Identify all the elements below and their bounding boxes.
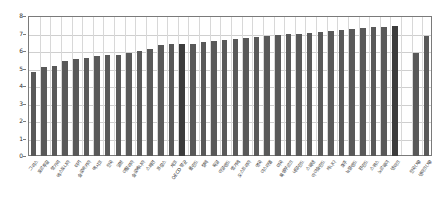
bar	[318, 32, 324, 156]
bar	[413, 53, 419, 156]
bar	[286, 34, 292, 156]
bar	[254, 37, 260, 156]
x-axis-tick-label: 호주	[339, 159, 348, 168]
bar	[328, 31, 334, 156]
bar	[349, 29, 355, 156]
y-axis: 012345678	[0, 16, 26, 156]
x-axis-tick-label: 일본	[116, 159, 125, 168]
bar	[211, 41, 217, 157]
bar	[84, 58, 90, 156]
bar	[222, 40, 228, 156]
bar	[126, 53, 132, 156]
y-axis-tick-mark	[23, 156, 26, 157]
y-axis-tick-mark	[23, 51, 26, 52]
y-axis-tick-mark	[23, 86, 26, 87]
y-axis-tick-mark	[23, 34, 26, 35]
bar	[41, 67, 47, 156]
bar	[31, 72, 37, 156]
bar	[179, 44, 185, 156]
bar	[201, 42, 207, 156]
x-axis-tick-label: 영국	[254, 159, 263, 168]
x-axis-tick-label: 스페인	[145, 159, 156, 172]
y-axis-tick-mark	[23, 121, 26, 122]
bar	[264, 36, 270, 156]
bar	[73, 59, 79, 156]
x-axis-tick-label: 체코	[169, 159, 178, 168]
bar	[392, 26, 398, 156]
x-axis-tick-label: 미국	[275, 159, 284, 168]
bar	[371, 27, 377, 156]
bar	[158, 45, 164, 156]
bar	[169, 44, 175, 156]
bar-chart: 012345678 그리스포르투갈헝가리에스토니아터키슬로바키아멕시코한국일본이…	[0, 0, 444, 203]
bar	[147, 49, 153, 156]
bar	[275, 35, 281, 156]
bar	[296, 34, 302, 157]
bar	[190, 44, 196, 156]
bars-layer	[28, 16, 432, 156]
bar	[381, 27, 387, 157]
x-axis-tick-label: 독일	[211, 159, 220, 168]
x-axis-tick-label: 폴란드	[188, 159, 199, 172]
bar	[94, 56, 100, 156]
x-axis-tick-label: 칠레	[201, 159, 210, 168]
x-axis-tick-label: 캐나다	[326, 159, 337, 172]
bar	[243, 38, 249, 156]
y-axis-tick-mark	[23, 139, 26, 140]
y-axis-tick-mark	[23, 69, 26, 70]
x-axis-tick-label: 핀란드	[358, 159, 369, 172]
bar	[137, 51, 143, 156]
bar	[52, 66, 58, 156]
x-axis-labels: 그리스포르투갈헝가리에스토니아터키슬로바키아멕시코한국일본이탈리아슬로베니아스페…	[28, 157, 432, 203]
bar	[307, 33, 313, 156]
bar	[116, 55, 122, 157]
x-axis-tick-label: 터키	[73, 159, 82, 168]
y-axis-tick-mark	[23, 104, 26, 105]
bar	[62, 61, 68, 156]
bar	[360, 28, 366, 156]
x-axis-tick-label: 한국	[105, 159, 114, 168]
bar	[424, 36, 430, 156]
bar	[105, 55, 111, 156]
x-axis-tick-label: 덴마크	[390, 159, 401, 172]
x-axis-tick-label: 프랑스	[156, 159, 167, 172]
y-axis-tick-mark	[23, 16, 26, 17]
bar	[233, 39, 239, 156]
bar	[339, 30, 345, 156]
x-axis-tick-label: 멕시코	[92, 159, 103, 172]
